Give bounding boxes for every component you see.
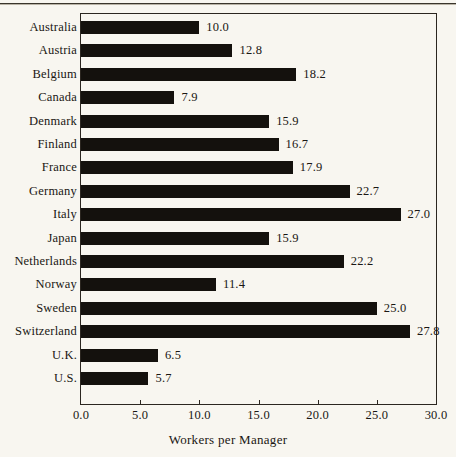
bar <box>81 115 269 128</box>
x-axis-tick <box>199 400 200 405</box>
bar-value-label: 17.9 <box>300 161 323 174</box>
bar <box>81 91 174 104</box>
category-label: Germany <box>0 185 77 198</box>
bar-value-label: 6.5 <box>165 349 181 362</box>
bar-value-label: 18.2 <box>303 68 326 81</box>
x-axis-title: Workers per Manager <box>0 432 456 448</box>
x-axis-tick <box>318 400 319 405</box>
x-axis-tick-label: 20.0 <box>306 408 329 422</box>
bars-layer: 10.012.818.27.915.916.717.922.727.015.92… <box>81 13 436 405</box>
category-label: Finland <box>0 138 77 151</box>
bar <box>81 232 269 245</box>
bar-value-label: 22.7 <box>357 185 380 198</box>
x-axis-tick <box>259 400 260 405</box>
bar <box>81 278 216 291</box>
bar <box>81 185 350 198</box>
category-label: Austria <box>0 44 77 57</box>
bar-value-label: 22.2 <box>351 255 374 268</box>
bar-value-label: 5.7 <box>155 372 171 385</box>
bar <box>81 302 377 315</box>
x-axis-tick-label: 30.0 <box>425 408 448 422</box>
y-axis-category-labels: AustraliaAustriaBelgiumCanadaDenmarkFinl… <box>0 13 77 405</box>
bar <box>81 44 232 57</box>
bar <box>81 161 293 174</box>
bar-value-label: 12.8 <box>239 44 262 57</box>
category-label: Australia <box>0 21 77 34</box>
category-label: Canada <box>0 91 77 104</box>
bar <box>81 68 296 81</box>
category-label: France <box>0 161 77 174</box>
bar <box>81 325 410 338</box>
category-label: Sweden <box>0 302 77 315</box>
category-label: Belgium <box>0 68 77 81</box>
bar-value-label: 7.9 <box>181 91 197 104</box>
bar-chart-figure: AustraliaAustriaBelgiumCanadaDenmarkFinl… <box>0 0 456 457</box>
category-label: Japan <box>0 232 77 245</box>
bar <box>81 255 344 268</box>
bar-value-label: 27.8 <box>417 325 440 338</box>
bar <box>81 208 401 221</box>
bar-value-label: 27.0 <box>408 208 431 221</box>
category-label: Denmark <box>0 115 77 128</box>
category-label: Italy <box>0 208 77 221</box>
x-axis-tick-label: 10.0 <box>188 408 211 422</box>
bar <box>81 372 148 385</box>
category-label: U.S. <box>0 372 77 385</box>
category-label: U.K. <box>0 349 77 362</box>
x-axis-tick-label: 0.0 <box>73 408 89 422</box>
x-axis-tick-label: 5.0 <box>132 408 148 422</box>
bar-value-label: 25.0 <box>384 302 407 315</box>
bar-value-label: 15.9 <box>276 115 299 128</box>
bar <box>81 138 279 151</box>
top-horizontal-rule-shadow <box>0 4 456 5</box>
x-axis-tick <box>377 400 378 405</box>
category-label: Switzerland <box>0 325 77 338</box>
x-axis-tick <box>140 400 141 405</box>
x-axis-tick-label: 25.0 <box>365 408 388 422</box>
bar-value-label: 15.9 <box>276 232 299 245</box>
bar <box>81 349 158 362</box>
category-label: Norway <box>0 278 77 291</box>
x-axis-tick-label: 15.0 <box>247 408 270 422</box>
bar-value-label: 11.4 <box>223 278 245 291</box>
bar-value-label: 16.7 <box>286 138 309 151</box>
bar-value-label: 10.0 <box>206 21 229 34</box>
category-label: Netherlands <box>0 255 77 268</box>
bar <box>81 21 199 34</box>
